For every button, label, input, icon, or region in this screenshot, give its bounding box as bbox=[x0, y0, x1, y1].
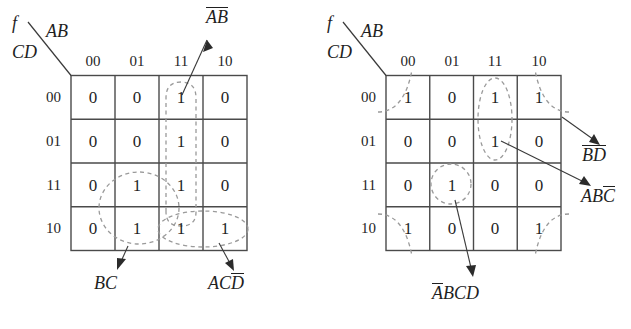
right-row-var-label: CD bbox=[327, 43, 352, 61]
right-row-header-1: 01 bbox=[350, 134, 376, 149]
right-col-header-3: 10 bbox=[517, 54, 561, 69]
right-cell-r0c1: 0 bbox=[430, 89, 474, 106]
right-kmap: f AB CD 00 01 11 10 00 01 11 10 1 0 1 1 … bbox=[0, 0, 631, 329]
right-col-header-0: 00 bbox=[386, 54, 430, 69]
figure-canvas: f AB CD 00 01 11 10 00 01 11 10 0 0 1 0 … bbox=[0, 0, 631, 329]
right-group-bd-label-part1-overbar: D bbox=[593, 146, 606, 164]
right-cell-r3c1: 0 bbox=[430, 220, 474, 237]
right-cell-r3c0: 1 bbox=[386, 220, 430, 237]
right-cell-r2c3: 0 bbox=[517, 177, 561, 194]
right-cell-r1c2: 1 bbox=[473, 133, 517, 150]
right-cell-r0c2: 1 bbox=[473, 89, 517, 106]
right-group-abc-label: ABC bbox=[581, 187, 615, 205]
right-function-label: f bbox=[327, 14, 332, 32]
right-group-abc-label-part1-overbar: C bbox=[603, 187, 615, 205]
right-col-header-1: 01 bbox=[430, 54, 474, 69]
right-cell-r2c2: 0 bbox=[473, 177, 517, 194]
right-row-header-0: 00 bbox=[350, 90, 376, 105]
right-cell-r0c0: 1 bbox=[386, 89, 430, 106]
right-col-var-label: AB bbox=[361, 22, 383, 40]
right-cell-r3c2: 0 bbox=[473, 220, 517, 237]
right-cell-r2c0: 0 bbox=[386, 177, 430, 194]
right-cell-r3c3: 1 bbox=[517, 220, 561, 237]
right-cell-r1c0: 0 bbox=[386, 133, 430, 150]
right-group-bd-label: BD bbox=[582, 146, 606, 164]
right-group-bd-label-part0-overbar: B bbox=[582, 146, 593, 164]
right-kmap-graphics bbox=[0, 0, 631, 329]
right-cell-r2c1: 1 bbox=[430, 177, 474, 194]
right-group-abcd-label-part1: BCD bbox=[443, 283, 479, 303]
right-cell-r1c3: 0 bbox=[517, 133, 561, 150]
right-group-abcd-label-part0-overbar: A bbox=[432, 284, 443, 302]
right-row-header-3: 10 bbox=[350, 221, 376, 236]
right-group-abcd-label: ABCD bbox=[432, 284, 479, 302]
right-cell-r0c3: 1 bbox=[517, 89, 561, 106]
right-col-header-2: 11 bbox=[473, 54, 517, 69]
right-kmap-arrowheads bbox=[466, 134, 600, 277]
right-cell-r1c1: 0 bbox=[430, 133, 474, 150]
right-row-header-2: 11 bbox=[350, 178, 376, 193]
right-group-abc-label-part0: AB bbox=[581, 186, 603, 206]
